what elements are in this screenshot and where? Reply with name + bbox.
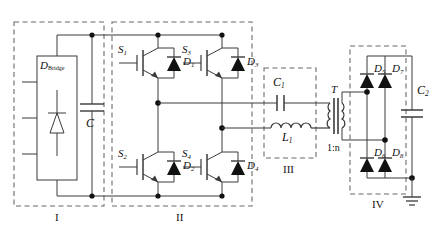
section-caption-III: III xyxy=(283,163,294,175)
d3-anode-triangle xyxy=(231,57,245,71)
diode-d1-label: D1 xyxy=(183,56,194,68)
d2-anode-triangle xyxy=(167,161,181,175)
diode-bridge-body xyxy=(37,56,77,180)
s3-collector-lead xyxy=(207,48,222,56)
section-caption-II: II xyxy=(176,211,183,223)
node-dot-leftleg-bottom xyxy=(155,193,160,198)
d6-anode-triangle xyxy=(360,158,374,172)
diode-d5-label: D5 xyxy=(374,63,385,75)
node-dot-rightleg-top xyxy=(219,32,224,37)
diode-d6-label: D6 xyxy=(374,147,385,159)
circuit-diagram: DBridge C S1 S3 S2 S4 D1 D3 D2 D4 C1 L1 … xyxy=(0,0,440,239)
d4-anode-triangle xyxy=(231,161,245,175)
d7-anode-triangle xyxy=(378,74,392,88)
igbt-s2-label: S2 xyxy=(118,148,127,160)
diode-d2-label: D2 xyxy=(183,160,194,172)
transformer-label: T xyxy=(331,84,337,95)
node-dot-output-ac-a xyxy=(364,89,370,95)
section-caption-IV: IV xyxy=(372,198,384,210)
resonant-capacitor-c1-label: C1 xyxy=(273,76,285,89)
igbt-s1-label: S1 xyxy=(118,44,127,56)
diode-d4-label: D4 xyxy=(247,160,258,172)
node-dot-leftleg-top xyxy=(155,32,160,37)
s2-collector-lead xyxy=(143,152,158,160)
transformer-secondary-winding xyxy=(342,103,345,128)
transformer-turns-ratio-label: 1:n xyxy=(327,143,340,153)
d8-anode-triangle xyxy=(378,158,392,172)
node-dot-dclink-top xyxy=(89,32,94,37)
d5-anode-triangle xyxy=(360,74,374,88)
dc-link-capacitor-label: C xyxy=(86,117,94,129)
diode-d8-label: D8 xyxy=(392,147,403,159)
transformer-primary-winding xyxy=(327,103,330,128)
diode-d7-label: D7 xyxy=(392,63,403,75)
node-dot-rightleg-bottom xyxy=(219,193,224,198)
node-dot-output-ac-b xyxy=(382,137,388,143)
s4-collector-lead xyxy=(207,152,222,160)
d1-anode-triangle xyxy=(167,57,181,71)
section-caption-I: I xyxy=(55,211,59,223)
diode-d3-label: D3 xyxy=(247,56,258,68)
diode-bridge-label: DBridge xyxy=(40,60,64,71)
output-capacitor-c2-label: C2 xyxy=(417,84,429,97)
l1-inductor-coil xyxy=(271,123,311,128)
s1-collector-lead xyxy=(143,48,158,56)
resonant-inductor-l1-label: L1 xyxy=(282,131,292,144)
node-dot-dclink-bottom xyxy=(89,193,94,198)
